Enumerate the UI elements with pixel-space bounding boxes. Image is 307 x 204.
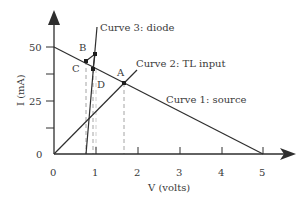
y-axis-title: I (mA): [15, 74, 26, 106]
y-axis-arrow-icon: [48, 10, 60, 25]
y-tick-50: 50: [29, 42, 42, 53]
curve-3-label: Curve 3: diode: [100, 22, 175, 33]
curve-1-label: Curve 1: source: [166, 94, 247, 105]
x-tick-4: 4: [218, 167, 224, 178]
point-a-marker: [122, 81, 126, 85]
x-tick-2: 2: [134, 167, 140, 178]
point-b-marker: [93, 52, 97, 56]
iv-diagram: A B C D Curve 3: diode Curve 2: TL input…: [0, 0, 307, 204]
point-d-label: D: [97, 79, 105, 90]
x-tick-5: 5: [259, 167, 265, 178]
point-a-label: A: [116, 67, 125, 78]
point-b-label: B: [79, 42, 86, 53]
point-d-marker: [91, 67, 95, 71]
y-tick-25: 25: [29, 96, 42, 107]
x-tick-1: 1: [92, 167, 98, 178]
x-axis-title: V (volts): [147, 182, 190, 193]
x-tick-0: 0: [50, 167, 56, 178]
point-c-label: C: [72, 63, 80, 74]
y-tick-0: 0: [36, 149, 42, 160]
curve-3-diode: [86, 27, 97, 154]
point-c-marker: [84, 59, 88, 63]
curve-2-label: Curve 2: TL input: [136, 58, 226, 69]
x-tick-3: 3: [176, 167, 182, 178]
